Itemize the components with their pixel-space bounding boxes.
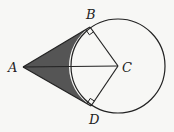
label-A: A [7,60,17,75]
segment-BC [90,27,118,66]
geometry-diagram: A B C D [0,0,174,132]
label-D: D [88,112,100,127]
label-B: B [85,7,96,22]
segment-DC [91,66,118,106]
label-C: C [122,60,132,75]
